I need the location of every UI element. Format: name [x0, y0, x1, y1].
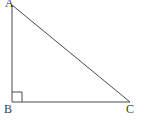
triangle-diagram	[0, 0, 146, 122]
right-angle-marker-icon	[12, 92, 22, 102]
hypotenuse-AC	[12, 5, 130, 102]
vertex-label-c: C	[126, 103, 134, 115]
geometry-figure: A B C	[0, 0, 146, 122]
vertex-label-a: A	[5, 0, 14, 9]
vertex-label-b: B	[4, 103, 12, 115]
